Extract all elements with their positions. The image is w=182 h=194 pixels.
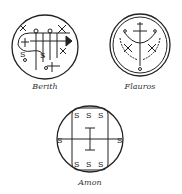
amon-seal: S S S S S S S S (57, 106, 123, 172)
berith-seal: S S (12, 15, 78, 79)
berith-label: Berith (20, 82, 70, 91)
svg-text:S: S (20, 50, 25, 59)
amon-label: Amon (65, 178, 115, 187)
svg-text:S: S (98, 160, 103, 169)
svg-text:S: S (57, 136, 62, 145)
svg-text:S: S (98, 111, 103, 120)
flauros-seal (110, 14, 170, 76)
svg-text:S: S (86, 160, 91, 169)
svg-text:S: S (86, 111, 91, 120)
svg-text:S: S (74, 160, 79, 169)
svg-text:S: S (74, 111, 79, 120)
svg-text:S: S (40, 51, 45, 60)
svg-text:S: S (117, 136, 122, 145)
flauros-label: Flauros (115, 82, 165, 91)
seals-illustration: S S S S S S S S S S (0, 0, 182, 194)
